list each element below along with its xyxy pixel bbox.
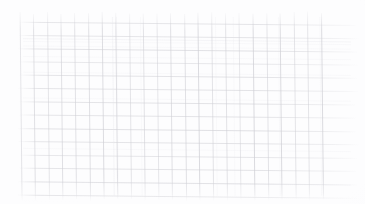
graph-paper-image bbox=[0, 0, 365, 204]
grid-lines bbox=[0, 0, 365, 204]
grid-layer bbox=[0, 0, 365, 204]
ghost-gridline bbox=[23, 72, 351, 75]
vertical-gridline bbox=[130, 14, 132, 200]
ghost-gridline bbox=[23, 41, 351, 44]
vertical-gridline bbox=[170, 13, 172, 200]
vertical-gridline bbox=[308, 12, 310, 201]
ghost-gridline bbox=[23, 201, 351, 204]
horizontal-gridline bbox=[20, 102, 356, 105]
ghost-gridline bbox=[233, 17, 235, 196]
horizontal-gridline bbox=[18, 129, 355, 132]
vertical-gridline bbox=[75, 13, 77, 199]
ghost-gridline bbox=[23, 182, 351, 185]
horizontal-gridline bbox=[18, 88, 358, 91]
ghost-gridline bbox=[23, 39, 351, 42]
horizontal-gridline bbox=[18, 195, 357, 198]
vertical-gridline bbox=[185, 14, 187, 201]
vertical-gridline bbox=[20, 12, 22, 201]
vertical-gridline bbox=[33, 14, 35, 201]
horizontal-gridline bbox=[19, 62, 358, 65]
vertical-gridline bbox=[157, 13, 159, 200]
vertical-gridline bbox=[226, 13, 228, 201]
horizontal-gridline bbox=[18, 49, 358, 52]
ghost-gridline bbox=[23, 98, 351, 101]
ghost-gridline bbox=[215, 17, 217, 196]
horizontal-gridline bbox=[20, 115, 356, 118]
horizontal-gridline bbox=[20, 75, 358, 78]
vertical-gridline bbox=[143, 14, 145, 201]
vertical-gridline bbox=[102, 12, 104, 199]
vertical-gridline bbox=[294, 12, 296, 199]
horizontal-gridline bbox=[18, 142, 358, 145]
ghost-gridline bbox=[23, 56, 351, 59]
vertical-gridline bbox=[89, 13, 91, 201]
horizontal-gridline bbox=[19, 22, 355, 25]
ghost-gridline bbox=[23, 46, 351, 49]
vertical-gridline bbox=[253, 14, 255, 201]
ghost-gridline bbox=[320, 17, 322, 196]
horizontal-gridline bbox=[19, 168, 356, 171]
vertical-gridline bbox=[48, 12, 50, 200]
vertical-gridline bbox=[198, 13, 200, 201]
horizontal-gridline bbox=[20, 155, 357, 158]
ghost-gridline bbox=[23, 148, 351, 151]
